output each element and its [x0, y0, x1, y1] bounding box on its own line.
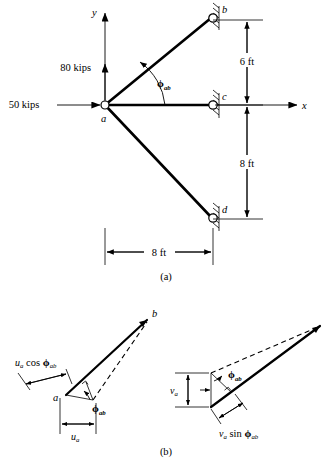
angle-phi-label-left: ϕab [92, 402, 106, 416]
v-base-label: va [170, 385, 178, 397]
joint-b: b [209, 3, 227, 30]
truss-displacement-figure: y x 50 kips 80 kips ϕab [0, 0, 333, 468]
angle-phi-ab: ϕab [140, 62, 171, 105]
u-cos-label: ua cos ϕab [15, 356, 57, 369]
member-ab [105, 18, 211, 105]
joint-d-label: d [222, 204, 228, 215]
dim-8ft-horizontal: 8 ft [105, 228, 213, 265]
vertex-label-a: a [53, 392, 58, 403]
displaced-line [93, 322, 147, 400]
joint-d: d [209, 203, 228, 231]
horizontal-load-label: 50 kips [9, 99, 40, 110]
u-base-label: ua [71, 431, 80, 443]
dimension-extension-lines [213, 20, 263, 219]
v-component-diagram: ϕab va va sin ϕab [170, 326, 320, 440]
joint-b-label: b [222, 4, 227, 15]
dim-8ft-vertical-label: 8 ft [240, 158, 254, 169]
joint-a-label: a [101, 113, 106, 124]
joint-c-label: c [222, 91, 227, 102]
truss-members [105, 18, 211, 217]
x-axis: x [213, 100, 307, 111]
u-component-diagram: b a ϕab ua cos ϕab [15, 308, 157, 443]
u-cos-dimension: ua cos ϕab [15, 356, 72, 390]
tip-label-b: b [152, 308, 157, 319]
u-base-dimension: ua [60, 398, 96, 443]
y-axis: y [91, 7, 105, 100]
joint-c: c [209, 90, 227, 118]
angle-phi-label-right: ϕab [228, 368, 242, 382]
panel-a-caption: (a) [160, 271, 172, 283]
perp-projection-line [86, 382, 93, 400]
dim-8ft-vertical: 8 ft [233, 107, 262, 217]
dim-6ft-label: 6 ft [240, 56, 254, 67]
joint-a: a [101, 101, 109, 124]
panel-b: b a ϕab ua cos ϕab [15, 308, 320, 458]
vertical-load: 80 kips [60, 62, 105, 105]
dim-8ft-horizontal-label: 8 ft [152, 247, 166, 258]
member-ad [105, 105, 211, 217]
member-line-ab [66, 320, 147, 395]
horizontal-load: 50 kips [9, 99, 100, 110]
angle-phi-label: ϕab [157, 77, 171, 91]
vertical-load-label: 80 kips [60, 62, 91, 73]
y-axis-label: y [91, 7, 97, 18]
panel-b-caption: (b) [160, 446, 173, 458]
dim-6ft: 6 ft [233, 22, 262, 103]
x-axis-label: x [301, 100, 307, 111]
v-sin-label: va sin ϕab [219, 427, 259, 440]
angle-phi-ab-right: ϕab [214, 368, 242, 382]
panel-a: y x 50 kips 80 kips ϕab [9, 3, 307, 283]
angle-phi-ab-left: ϕab [84, 391, 106, 416]
v-base-dimension: va [170, 373, 210, 407]
